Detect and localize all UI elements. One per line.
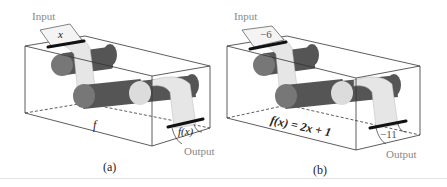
input-label: Input	[234, 10, 257, 22]
machine-label: f	[93, 118, 96, 133]
divider	[0, 178, 447, 179]
input-value: x	[58, 28, 63, 40]
output-value: −11	[380, 128, 397, 140]
function-machine-panel-b: Input −6 f(x) = 2x + 1 −11 Output (b)	[224, 0, 447, 180]
function-machine-panel-a: Input x f f(x) Output (a)	[0, 0, 224, 180]
output-value: f(x)	[178, 125, 193, 137]
caption-b: (b)	[313, 163, 327, 178]
output-label: Output	[184, 145, 215, 157]
input-label: Input	[32, 10, 55, 22]
output-label: Output	[386, 148, 417, 160]
caption-a: (a)	[103, 160, 116, 175]
input-value: −6	[260, 28, 272, 40]
